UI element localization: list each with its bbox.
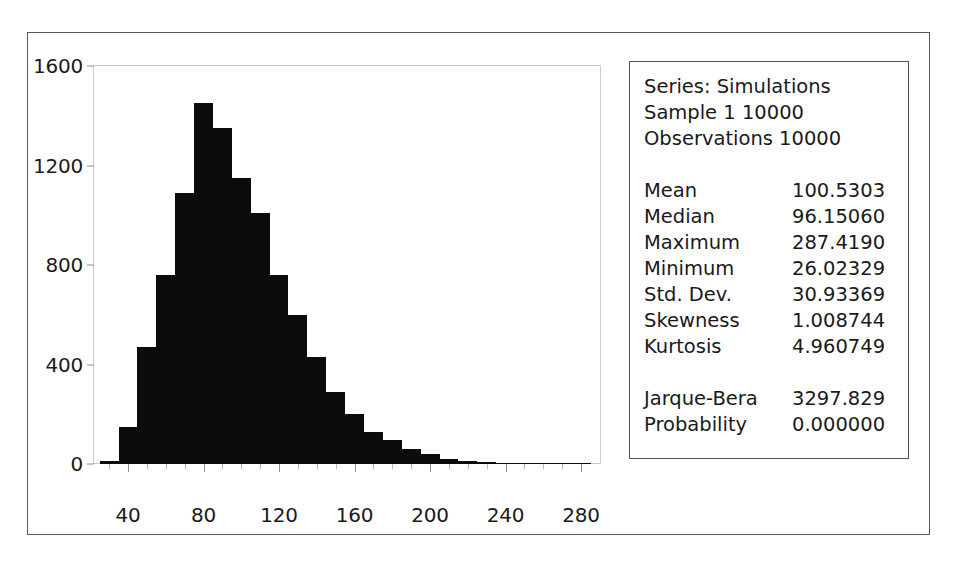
x-axis-minor-tick [260, 464, 261, 469]
stats-sample-line: Sample 1 10000 [644, 100, 908, 126]
x-axis-minor-tick [241, 464, 242, 469]
statistic-row: Skewness1.008744 [644, 308, 908, 334]
stat-value: 1.008744 [792, 308, 885, 334]
test-statistic-row: Probability0.000000 [644, 412, 908, 438]
statistics-box: Series: Simulations Sample 1 10000 Obser… [629, 61, 909, 459]
stats-header: Series: Simulations Sample 1 10000 Obser… [644, 74, 908, 152]
stat-value: 3297.829 [792, 386, 885, 412]
x-axis-tick-label: 40 [115, 503, 140, 527]
statistic-row: Minimum26.02329 [644, 256, 908, 282]
x-axis-minor-tick [336, 464, 337, 469]
x-axis-major-tick [430, 464, 431, 472]
x-axis-minor-tick [185, 464, 186, 469]
x-axis-minor-tick [487, 464, 488, 469]
x-axis-minor-tick [166, 464, 167, 469]
stat-value: 30.93369 [792, 282, 885, 308]
x-axis-minor-tick [543, 464, 544, 469]
stat-label: Probability [644, 412, 747, 438]
stats-series-line: Series: Simulations [644, 74, 908, 100]
x-axis-major-tick [204, 464, 205, 472]
x-axis-tick-label: 280 [562, 503, 600, 527]
x-axis-minor-tick [109, 464, 110, 469]
x-axis-minor-tick [373, 464, 374, 469]
stat-label: Maximum [644, 230, 740, 256]
x-axis-major-tick [128, 464, 129, 472]
stat-label: Median [644, 204, 715, 230]
stat-label: Kurtosis [644, 334, 722, 360]
normality-test-list: Jarque-Bera3297.829Probability0.000000 [644, 386, 908, 438]
statistic-row: Kurtosis4.960749 [644, 334, 908, 360]
x-axis-minor-tick [317, 464, 318, 469]
x-axis-tick-label: 200 [411, 503, 449, 527]
x-axis-minor-tick [524, 464, 525, 469]
statistic-row: Median96.15060 [644, 204, 908, 230]
stats-observations-line: Observations 10000 [644, 126, 908, 152]
x-axis-tick-label: 160 [336, 503, 374, 527]
statistic-row: Maximum287.4190 [644, 230, 908, 256]
x-axis-minor-tick [392, 464, 393, 469]
x-axis-tick-label: 240 [487, 503, 525, 527]
x-axis: 4080120160200240280 [28, 33, 626, 536]
stat-value: 96.15060 [792, 204, 885, 230]
statistic-row: Mean100.5303 [644, 178, 908, 204]
x-axis-minor-tick [449, 464, 450, 469]
x-axis-minor-tick [222, 464, 223, 469]
x-axis-minor-tick [468, 464, 469, 469]
x-axis-tick-label: 80 [191, 503, 216, 527]
x-axis-minor-tick [298, 464, 299, 469]
stat-label: Minimum [644, 256, 734, 282]
test-statistic-row: Jarque-Bera3297.829 [644, 386, 908, 412]
histogram-chart-panel: 040080012001600 4080120160200240280 [28, 33, 626, 536]
statistic-row: Std. Dev.30.93369 [644, 282, 908, 308]
x-axis-major-tick [355, 464, 356, 472]
x-axis-minor-tick [562, 464, 563, 469]
stat-value: 0.000000 [792, 412, 885, 438]
stat-label: Skewness [644, 308, 740, 334]
x-axis-tick-label: 120 [260, 503, 298, 527]
stat-value: 287.4190 [792, 230, 885, 256]
x-axis-major-tick [506, 464, 507, 472]
stat-label: Std. Dev. [644, 282, 732, 308]
stat-label: Jarque-Bera [644, 386, 758, 412]
stat-value: 26.02329 [792, 256, 885, 282]
stat-value: 100.5303 [792, 178, 885, 204]
descriptive-statistics-list: Mean100.5303Median96.15060Maximum287.419… [644, 178, 908, 360]
stats-spacer-bottom [644, 360, 908, 386]
x-axis-minor-tick [147, 464, 148, 469]
x-axis-minor-tick [411, 464, 412, 469]
x-axis-major-tick [581, 464, 582, 472]
x-axis-major-tick [279, 464, 280, 472]
stat-label: Mean [644, 178, 697, 204]
stat-value: 4.960749 [792, 334, 885, 360]
eviews-histogram-window: 040080012001600 4080120160200240280 Seri… [27, 32, 930, 535]
stats-spacer-top [644, 152, 908, 178]
